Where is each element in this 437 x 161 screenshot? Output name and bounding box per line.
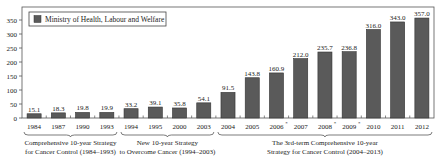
bar	[197, 103, 211, 118]
bar-value-label: 357.0	[414, 10, 430, 18]
x-tick-label: 2012	[415, 123, 430, 131]
bar	[269, 73, 283, 118]
bar	[391, 22, 405, 118]
x-tick-mark: *	[285, 121, 288, 126]
y-tick-label: 100	[7, 87, 18, 95]
x-tick-mark: *	[358, 121, 361, 126]
group-brace	[218, 132, 432, 137]
bar	[366, 30, 380, 118]
bar-value-label: 235.7	[317, 44, 333, 52]
x-tick-label: 1990	[76, 123, 91, 131]
group-brace	[24, 132, 117, 137]
bar	[27, 114, 41, 118]
x-tick-label: 1994	[124, 123, 139, 131]
bar-value-label: 143.8	[244, 70, 260, 78]
y-axis: 050100150200250300350	[7, 17, 23, 123]
bar-value-label: 39.1	[149, 99, 162, 107]
bar	[415, 18, 429, 118]
x-tick-label: 2005	[245, 123, 260, 131]
bar	[173, 108, 187, 118]
y-tick-label: 150	[7, 73, 18, 81]
bar-value-label: 18.3	[52, 105, 65, 113]
group-label: Strategy for Cancer Control (2004–2013)	[267, 148, 384, 156]
group-label: for Cancer Control (1984–1993)	[25, 148, 116, 156]
x-tick-label: 1995	[148, 123, 163, 131]
strategy-groups: Comprehensive 10-year Strategyfor Cancer…	[24, 132, 432, 156]
bar-value-label: 15.1	[28, 106, 41, 114]
x-tick-label: 2008	[318, 123, 333, 131]
bar-chart: 050100150200250300350 15.118.319.819.933…	[0, 0, 437, 161]
bar	[100, 112, 114, 118]
x-tick-label: 1984	[27, 123, 42, 131]
bar-value-label: 35.8	[173, 100, 186, 108]
x-tick-label: 2004	[221, 123, 236, 131]
bar-value-label: 91.5	[222, 84, 235, 92]
x-tick-label: 1993	[100, 123, 115, 131]
legend-swatch	[34, 16, 41, 23]
group-label: to Overcome Cancer (1994–2003)	[119, 148, 215, 156]
bar-value-label: 54.1	[198, 95, 211, 103]
bar	[245, 78, 259, 118]
y-tick-label: 250	[7, 45, 18, 53]
x-tick-label: 2000	[173, 123, 188, 131]
bar	[148, 107, 162, 118]
x-tick-label: 2003	[197, 123, 212, 131]
bar	[342, 52, 356, 118]
y-tick-label: 50	[10, 101, 18, 109]
bar-value-label: 236.8	[341, 44, 357, 52]
bar	[51, 113, 65, 118]
group-label: Comprehensive 10-year Strategy	[24, 139, 117, 147]
y-tick-label: 350	[7, 17, 18, 25]
bar-value-label: 160.9	[269, 65, 285, 73]
x-tick-mark: *	[334, 121, 337, 126]
bar	[294, 59, 308, 118]
x-tick-label: 2011	[391, 123, 405, 131]
x-tick-label: 2009	[342, 123, 357, 131]
bar-value-label: 343.0	[390, 14, 406, 22]
y-tick-label: 0	[14, 115, 18, 123]
bar	[221, 92, 235, 118]
group-label: New 10-year Strategy	[137, 139, 199, 147]
bar	[318, 52, 332, 118]
bar-value-label: 19.8	[76, 104, 89, 112]
group-label: The 3rd-term Comprehensive 10-year	[272, 139, 379, 147]
x-tick-label: 1987	[51, 123, 66, 131]
group-brace	[121, 132, 214, 137]
bar	[124, 109, 138, 118]
bar-value-label: 19.9	[101, 104, 114, 112]
bar	[76, 112, 90, 118]
y-tick-label: 200	[7, 59, 18, 67]
bar-value-label: 212.0	[293, 51, 309, 59]
bar-value-label: 33.2	[125, 101, 138, 109]
legend: Ministry of Health, Labour and Welfare	[29, 12, 166, 26]
x-tick-label: 2010	[366, 123, 381, 131]
x-tick-label: 2007	[294, 123, 309, 131]
y-tick-label: 300	[7, 31, 18, 39]
bar-value-label: 316.0	[366, 22, 382, 30]
legend-label: Ministry of Health, Labour and Welfare	[45, 15, 165, 24]
x-tick-label: 2006	[269, 123, 284, 131]
